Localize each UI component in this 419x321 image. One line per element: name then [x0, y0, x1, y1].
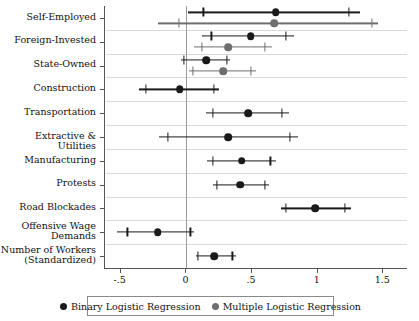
y-axis-tick: [100, 66, 105, 67]
gridline: [106, 173, 407, 174]
estimate-point: [311, 205, 319, 213]
confidence-interval-cap: [265, 43, 266, 52]
confidence-interval-cap: [212, 156, 213, 165]
y-axis-tick: [100, 42, 105, 43]
x-axis-tick-label: 1: [314, 274, 320, 285]
y-axis-label: Foreign-Invested: [14, 35, 96, 46]
legend-marker-icon: [212, 303, 219, 310]
x-axis-tick-label: .5: [247, 274, 256, 285]
confidence-interval-cap: [216, 180, 217, 189]
gridline: [106, 77, 407, 78]
legend: Binary Logistic RegressionMultiple Logis…: [87, 296, 334, 316]
y-axis-tick: [100, 113, 105, 114]
estimate-point: [225, 133, 233, 141]
confidence-interval-cap: [183, 56, 184, 65]
gridline: [106, 149, 407, 150]
confidence-interval-cap: [371, 19, 372, 28]
coefficient-plot: Self-EmployedForeign-InvestedState-Owned…: [0, 0, 419, 321]
estimate-point: [244, 109, 252, 117]
estimate-point: [176, 86, 184, 94]
confidence-interval-cap: [282, 109, 283, 118]
x-axis-tick: [120, 269, 121, 273]
y-axis-tick: [100, 208, 105, 209]
x-axis-tick-label: -.5: [114, 274, 126, 285]
confidence-interval-cap: [345, 204, 346, 213]
confidence-interval-cap: [178, 19, 179, 28]
estimate-point: [247, 32, 255, 40]
estimate-point: [210, 252, 218, 260]
legend-marker-icon: [60, 303, 67, 310]
estimate-point: [236, 181, 244, 189]
estimate-point: [202, 56, 210, 64]
legend-label: Binary Logistic Regression: [71, 301, 201, 312]
x-axis-tick: [185, 269, 186, 273]
confidence-interval-cap: [250, 67, 251, 76]
estimate-point: [219, 67, 227, 75]
x-axis-tick: [317, 269, 318, 273]
y-axis-tick: [100, 89, 105, 90]
confidence-interval-cap: [145, 85, 146, 94]
x-axis-tick: [251, 269, 252, 273]
confidence-interval-cap: [198, 252, 199, 261]
confidence-interval-cap: [203, 8, 204, 17]
estimate-point: [271, 20, 279, 28]
confidence-interval-cap: [190, 228, 191, 237]
y-axis-label: Transportation: [24, 107, 96, 118]
confidence-interval-line: [194, 47, 271, 48]
confidence-interval-cap: [290, 133, 291, 142]
gridline: [106, 244, 407, 245]
confidence-interval-cap: [127, 228, 128, 237]
y-axis-label: Extractive & Utilities: [0, 131, 96, 152]
gridline: [106, 101, 407, 102]
y-axis-tick: [100, 18, 105, 19]
y-axis-labels: Self-EmployedForeign-InvestedState-Owned…: [0, 0, 100, 268]
confidence-interval-cap: [286, 32, 287, 41]
confidence-interval-line: [158, 23, 379, 24]
estimate-point: [154, 228, 162, 236]
y-axis-tick: [100, 256, 105, 257]
confidence-interval-cap: [212, 109, 213, 118]
estimate-point: [238, 157, 246, 165]
gridline: [106, 220, 407, 221]
legend-entry: Multiple Logistic Regression: [212, 301, 361, 312]
legend-label: Multiple Logistic Regression: [223, 301, 361, 312]
x-axis-tick: [382, 269, 383, 273]
gridline: [106, 197, 407, 198]
y-axis-label: Road Blockades: [19, 202, 96, 213]
y-axis-tick: [100, 137, 105, 138]
plot-area: [105, 6, 407, 268]
y-axis-tick: [100, 185, 105, 186]
y-axis-tick: [100, 161, 105, 162]
confidence-interval-cap: [265, 180, 266, 189]
gridline: [106, 54, 407, 55]
confidence-interval-cap: [213, 85, 214, 94]
confidence-interval-cap: [192, 67, 193, 76]
x-axis-ticks: -.50.511.5: [104, 269, 407, 287]
estimate-point: [272, 9, 280, 17]
y-axis-tick: [100, 232, 105, 233]
confidence-interval-cap: [270, 156, 271, 165]
gridline: [106, 125, 407, 126]
y-axis-label: Offensive Wage Demands: [21, 221, 96, 242]
confidence-interval-cap: [167, 133, 168, 142]
y-axis-label: Self-Employed: [27, 12, 96, 23]
confidence-interval-cap: [286, 204, 287, 213]
confidence-interval-cap: [211, 32, 212, 41]
estimate-point: [225, 43, 233, 51]
y-axis-label: State-Owned: [34, 59, 96, 70]
legend-entry: Binary Logistic Regression: [60, 301, 201, 312]
confidence-interval-cap: [227, 56, 228, 65]
y-axis-label: Construction: [34, 83, 96, 94]
y-axis-label: Number of Workers (Standardized): [1, 245, 96, 266]
confidence-interval-cap: [202, 43, 203, 52]
gridline: [106, 30, 407, 31]
y-axis-label: Protests: [56, 178, 96, 189]
x-axis-tick-label: 1.5: [375, 274, 390, 285]
y-axis-label: Manufacturing: [24, 155, 96, 166]
confidence-interval-cap: [232, 252, 233, 261]
confidence-interval-cap: [349, 8, 350, 17]
x-axis-tick-label: 0: [182, 274, 188, 285]
